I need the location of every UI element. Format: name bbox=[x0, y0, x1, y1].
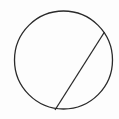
diagram-canvas bbox=[0, 0, 119, 119]
chord-line bbox=[55, 32, 105, 110]
circle-shape bbox=[15, 11, 113, 109]
